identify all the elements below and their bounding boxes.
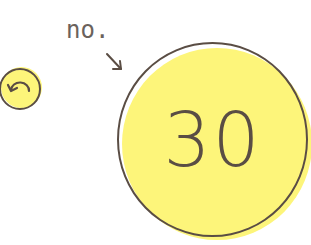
undo-arrow-icon (4, 74, 34, 104)
number-label: no. (66, 16, 109, 44)
counter-value: 30 (117, 42, 308, 237)
